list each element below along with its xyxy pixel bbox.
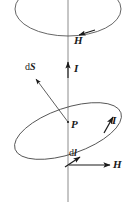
area-element-vector-arrow — [36, 79, 68, 122]
label-i-axis: I — [74, 63, 78, 74]
label-ds-symbol: S — [30, 61, 36, 72]
diagram-vector-graphics — [0, 0, 131, 202]
label-h-lower: H — [113, 159, 122, 170]
field-point-p — [67, 121, 69, 123]
label-dl: dl — [69, 148, 77, 158]
label-dl-symbol: l — [74, 147, 77, 158]
label-ds: dS — [25, 62, 36, 72]
label-point-p: P — [71, 119, 78, 130]
physics-diagram-canvas: H I dS P I dl H — [0, 0, 131, 202]
label-i-loop: I — [112, 115, 116, 126]
label-h-upper: H — [74, 35, 83, 46]
